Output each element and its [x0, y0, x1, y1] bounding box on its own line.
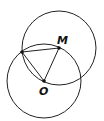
segment-am [22, 48, 59, 52]
segment-mo [44, 48, 59, 81]
label-o: O [39, 85, 48, 98]
point-o [42, 79, 46, 83]
geometry-diagram: M O [0, 0, 104, 121]
label-m: M [57, 34, 68, 47]
point-a [20, 50, 24, 54]
segment-ao [22, 52, 44, 81]
